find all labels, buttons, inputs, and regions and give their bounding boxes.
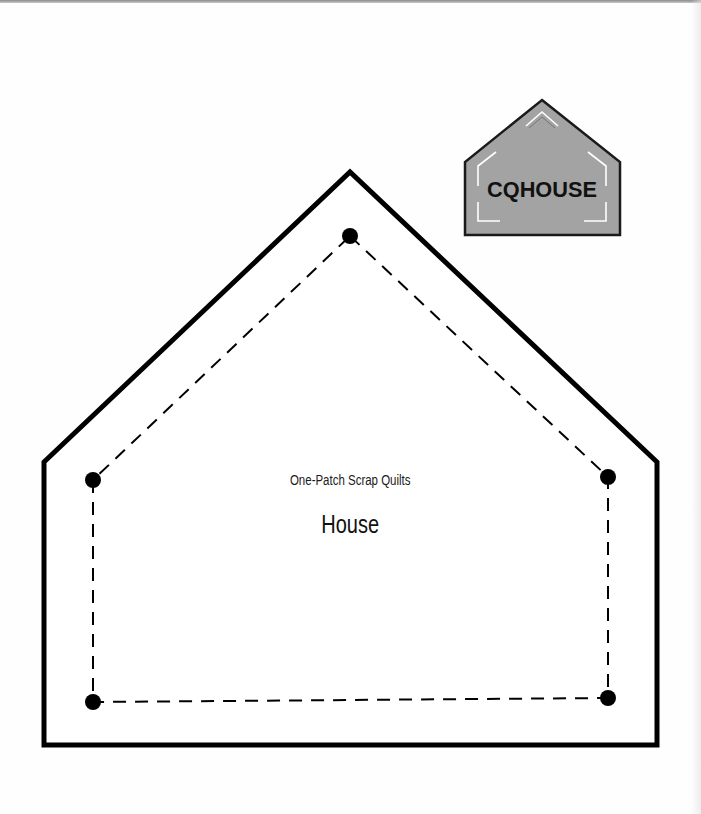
- corner-dot-right-lower: [600, 690, 616, 706]
- corner-dot-top: [342, 228, 358, 244]
- pattern-book-subtitle: One-Patch Scrap Quilts: [63, 472, 638, 488]
- badge-label: CQHOUSE: [487, 177, 597, 202]
- cqhouse-badge: CQHOUSE: [465, 100, 620, 235]
- template-page: CQHOUSE One-Patch Scrap Quilts House: [0, 0, 701, 814]
- corner-dot-left-lower: [85, 694, 101, 710]
- pattern-name-title: House: [70, 510, 631, 539]
- badge-house-shape: [465, 100, 620, 235]
- house-template-drawing: CQHOUSE: [0, 0, 701, 814]
- cutting-outline: [44, 172, 657, 745]
